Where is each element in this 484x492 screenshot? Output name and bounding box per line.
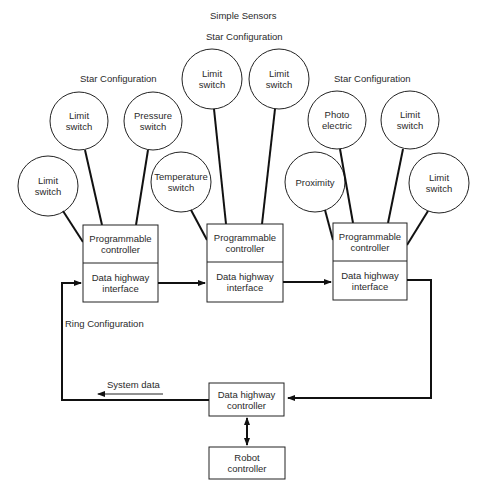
- data-highway-interface-label: Data highway interface: [83, 263, 158, 302]
- sensor-limit-switch: Limit switch: [35, 175, 61, 197]
- diagram-title: Simple Sensors: [210, 10, 277, 21]
- data-highway-controller-label: Data highway controller: [209, 383, 284, 416]
- data-highway-interface-label: Data highway interface: [333, 261, 407, 300]
- programmable-controller-label: Programmable controller: [207, 224, 283, 262]
- group-label-3: Star Configuration: [334, 73, 411, 84]
- sensor-photo-electric: Photo electric: [322, 109, 352, 131]
- sensor-limit-switch: Limit switch: [426, 172, 452, 194]
- data-highway-interface-label: Data highway interface: [207, 262, 283, 302]
- group-label-1: Star Configuration: [80, 73, 157, 84]
- ring-configuration-label: Ring Configuration: [65, 318, 144, 329]
- programmable-controller-label: Programmable controller: [333, 223, 407, 261]
- group-label-2: Star Configuration: [206, 31, 283, 42]
- sensor-limit-switch: Limit switch: [66, 110, 92, 132]
- sensor-limit-switch: Limit switch: [397, 109, 423, 131]
- sensor-proximity: Proximity: [295, 177, 334, 188]
- system-data-label: System data: [107, 379, 160, 390]
- sensor-pressure-switch: Pressure switch: [134, 110, 172, 132]
- robot-controller-label: Robot controller: [209, 447, 285, 479]
- sensor-temperature-switch: Temperature switch: [154, 171, 207, 193]
- programmable-controller-label: Programmable controller: [83, 225, 158, 263]
- sensor-limit-switch: Limit switch: [199, 68, 225, 90]
- sensor-limit-switch: Limit switch: [266, 68, 292, 90]
